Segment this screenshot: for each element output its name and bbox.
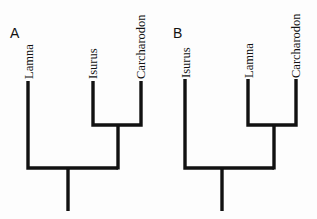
panel-a-taxon-3: Carcharodon — [134, 14, 148, 79]
panel-b-taxon-3: Carcharodon — [289, 13, 303, 78]
panel-b-taxon-1: Isurus — [179, 47, 193, 78]
panel-a-branch-sister-pair — [93, 81, 141, 125]
panel-b-branch-sister-pair — [248, 79, 296, 125]
panel-a-taxon-2: Isurus — [86, 48, 100, 79]
panel-b: B Isurus Lamna Carcharodon — [173, 13, 303, 211]
panel-a-taxon-1: Lamna — [22, 44, 36, 79]
panel-b-taxon-2: Lamna — [242, 43, 256, 78]
cladogram-svg: A Lamna Isurus Carcharodon B Isurus Lamn… — [0, 0, 317, 219]
panel-a-label: A — [10, 25, 20, 41]
cladogram-figure: A Lamna Isurus Carcharodon B Isurus Lamn… — [0, 0, 317, 219]
panel-a: A Lamna Isurus Carcharodon — [10, 14, 148, 211]
panel-b-label: B — [173, 25, 182, 41]
